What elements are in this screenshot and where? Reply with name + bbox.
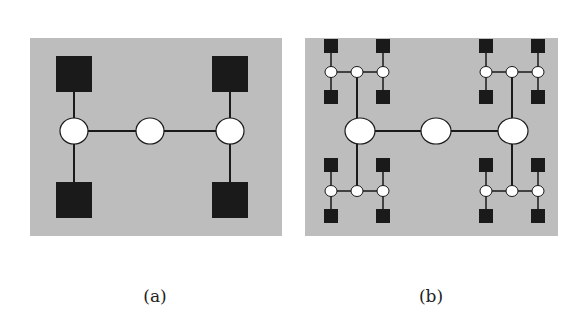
panel-a-square-bottom-right (212, 182, 248, 218)
panel-a-circle-left (60, 118, 88, 144)
h-tree-figure (0, 0, 581, 322)
panel-a-h-tree-iteration-1 (30, 38, 282, 236)
panel-b-circle-right (498, 118, 528, 144)
panel-a-square-top-right (212, 56, 248, 92)
panel-b-circle-left (345, 118, 375, 144)
panel-a-square-bottom-left (56, 182, 92, 218)
panel-b-circle-middle (421, 118, 451, 144)
caption-a: (a) (143, 286, 166, 306)
panel-a-circle-right (216, 118, 244, 144)
panel-a-square-top-left (56, 56, 92, 92)
panel-a-circle-middle (136, 118, 164, 144)
caption-b: (b) (419, 286, 443, 306)
panel-b-h-tree-iteration-2 (305, 38, 558, 236)
